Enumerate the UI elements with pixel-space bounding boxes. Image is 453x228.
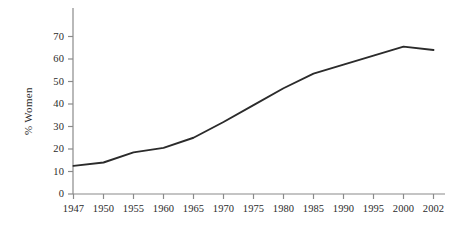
y-axis-tick-label: 30 <box>32 121 64 132</box>
chart-container: % Women 010203040506070 1947195019551960… <box>0 0 453 228</box>
y-axis-ticks <box>68 37 73 195</box>
x-axis-tick-label: 1990 <box>333 204 354 215</box>
y-axis-tick-label: 0 <box>32 189 64 200</box>
x-axis-tick-label: 1955 <box>123 204 144 215</box>
x-axis-tick-label: 1985 <box>303 204 324 215</box>
x-axis-tick-label: 1947 <box>63 204 84 215</box>
y-axis-tick-label: 60 <box>32 54 64 65</box>
x-axis-tick-label: 1995 <box>363 204 384 215</box>
x-axis-tick-label: 2000 <box>393 204 414 215</box>
y-axis-tick-label: 50 <box>32 76 64 87</box>
x-axis-tick-label: 1980 <box>273 204 294 215</box>
x-axis-tick-label: 1970 <box>213 204 234 215</box>
x-axis-tick-label: 1965 <box>183 204 204 215</box>
data-series-line <box>74 47 434 166</box>
x-axis-ticks <box>74 194 434 199</box>
x-axis-tick-label: 2002 <box>423 204 444 215</box>
y-axis-tick-label: 20 <box>32 144 64 155</box>
line-chart-plot <box>0 0 453 228</box>
x-axis-tick-label: 1950 <box>93 204 114 215</box>
x-axis-tick-label: 1975 <box>243 204 264 215</box>
y-axis-tick-label: 70 <box>32 31 64 42</box>
x-axis-tick-label: 1960 <box>153 204 174 215</box>
y-axis-tick-label: 10 <box>32 166 64 177</box>
y-axis-tick-label: 40 <box>32 99 64 110</box>
